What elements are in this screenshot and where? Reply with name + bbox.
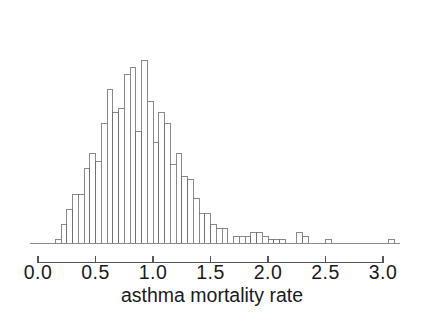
histogram-bar [205, 214, 211, 244]
histogram-bar [130, 67, 136, 243]
histogram-bar [211, 225, 217, 244]
histogram-bar [113, 112, 119, 243]
x-axis-tick-label: 2.5 [311, 261, 340, 283]
x-axis-tick-label: 3.0 [369, 261, 398, 283]
histogram-bar [326, 240, 332, 244]
histogram-bar [142, 60, 148, 244]
x-axis-tick-label: 0.0 [24, 261, 53, 283]
histogram-bar [107, 90, 113, 244]
histogram-bar [268, 240, 274, 244]
histogram-figure: 0.00.51.01.52.02.53.0 asthma mortality r… [0, 0, 425, 323]
histogram-bar [67, 210, 73, 244]
histogram-bar [251, 232, 257, 243]
histogram-bar [55, 240, 61, 244]
histogram-bar [101, 124, 107, 244]
histogram-bar [245, 236, 251, 243]
histogram-bar [136, 131, 142, 243]
histogram-bar [73, 195, 79, 244]
x-axis-tick-label: 2.0 [254, 261, 283, 283]
histogram-plot: 0.00.51.01.52.02.53.0 asthma mortality r… [0, 0, 425, 323]
histogram-bars [55, 60, 394, 244]
histogram-bar [61, 225, 67, 244]
x-axis-tick-label: 1.0 [139, 261, 168, 283]
x-axis-title: asthma mortality rate [121, 284, 303, 306]
histogram-bar [182, 176, 188, 243]
histogram-bar [170, 165, 176, 244]
histogram-bar [188, 180, 194, 244]
histogram-bar [165, 124, 171, 244]
histogram-bar [222, 229, 228, 244]
histogram-bar [262, 236, 268, 243]
histogram-bar [199, 214, 205, 244]
x-axis-tick-label: 0.5 [81, 261, 110, 283]
x-axis-tick-label: 1.5 [196, 261, 225, 283]
histogram-bar [216, 229, 222, 244]
histogram-bar [389, 240, 395, 244]
histogram-bar [90, 154, 96, 244]
histogram-bar [239, 236, 245, 243]
histogram-bar [147, 101, 153, 243]
histogram-bar [303, 236, 309, 243]
histogram-bar [257, 232, 263, 243]
x-axis-tick-labels: 0.00.51.01.52.02.53.0 [24, 261, 398, 283]
histogram-bar [193, 199, 199, 244]
histogram-bar [274, 240, 280, 244]
histogram-bar [96, 161, 102, 243]
histogram-bar [84, 169, 90, 244]
histogram-bar [124, 75, 130, 244]
histogram-bar [176, 154, 182, 244]
histogram-bar [119, 109, 125, 244]
histogram-bar [153, 142, 159, 243]
histogram-bar [78, 195, 84, 244]
histogram-bar [234, 236, 240, 243]
histogram-bar [280, 240, 286, 244]
histogram-bar [297, 232, 303, 243]
histogram-bar [159, 112, 165, 243]
